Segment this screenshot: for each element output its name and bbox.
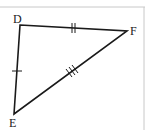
diagram-canvas: D F E bbox=[0, 0, 145, 130]
triangle-diagram: D F E bbox=[0, 0, 145, 130]
vertex-label-d: D bbox=[13, 12, 22, 26]
vertex-label-e: E bbox=[9, 116, 16, 130]
vertex-label-f: F bbox=[130, 24, 137, 38]
